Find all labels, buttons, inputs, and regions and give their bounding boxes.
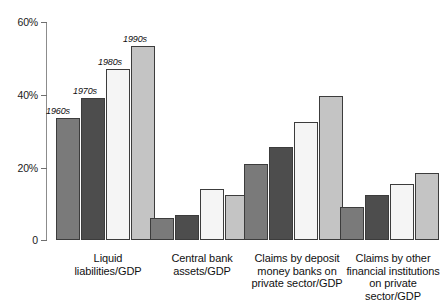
- bars-central-bank-assets: [150, 22, 254, 240]
- y-tick-label-40-wrap: 40%: [0, 90, 38, 101]
- category-label-line: sector/GDP: [331, 290, 441, 303]
- y-tick-label-60: 60%: [2, 17, 38, 28]
- category-label-line: Claims by other: [331, 252, 441, 265]
- bars-liquid-liabilities: [56, 22, 160, 240]
- data-label-1990s: 1990s: [123, 35, 147, 44]
- bar-group-deposit-money-banks: [244, 22, 348, 240]
- bar-1960s-deposit-money-banks[interactable]: [244, 164, 268, 240]
- y-tick-60: [41, 22, 47, 23]
- bar-1970s-liquid-liabilities[interactable]: [81, 98, 105, 240]
- bar-1970s-deposit-money-banks[interactable]: [269, 147, 293, 240]
- bar-1970s-other-financial-institutions[interactable]: [365, 195, 389, 240]
- bar-1970s-central-bank-assets[interactable]: [175, 215, 199, 240]
- y-tick-label-0: 0: [2, 235, 38, 246]
- y-tick-label-20-wrap: 20%: [0, 163, 38, 174]
- bar-group-central-bank-assets: [150, 22, 254, 240]
- data-label-1980s: 1980s: [98, 58, 122, 67]
- y-tick-label-0-wrap: 0: [0, 235, 38, 246]
- category-label-line: financial institutions: [331, 265, 441, 278]
- y-tick-0: [41, 240, 47, 241]
- bar-1960s-liquid-liabilities[interactable]: [56, 118, 80, 240]
- bar-1960s-other-financial-institutions[interactable]: [340, 207, 364, 240]
- bar-1980s-central-bank-assets[interactable]: [200, 189, 224, 240]
- y-axis-line: [46, 22, 47, 241]
- data-label-1960s: 1960s: [46, 107, 70, 116]
- bar-1990s-other-financial-institutions[interactable]: [415, 173, 439, 240]
- category-label-other-financial-institutions: Claims by other financial institutions o…: [331, 252, 441, 302]
- bars-other-financial-institutions: [340, 22, 441, 240]
- category-label-line: on private: [331, 277, 441, 290]
- bar-1980s-liquid-liabilities[interactable]: [106, 69, 130, 240]
- bar-1980s-deposit-money-banks[interactable]: [294, 122, 318, 240]
- plot-area: 60% 40% 20% 0 1960s 1970s 1980s: [0, 0, 441, 306]
- y-tick-label-60-wrap: 60%: [0, 17, 38, 28]
- data-label-1970s: 1970s: [73, 87, 97, 96]
- bar-1980s-other-financial-institutions[interactable]: [390, 184, 414, 240]
- bars-deposit-money-banks: [244, 22, 348, 240]
- y-tick-label-40: 40%: [2, 90, 38, 101]
- bar-1960s-central-bank-assets[interactable]: [150, 218, 174, 240]
- bar-group-other-financial-institutions: [340, 22, 441, 240]
- y-tick-40: [41, 95, 47, 96]
- y-tick-20: [41, 168, 47, 169]
- bar-group-liquid-liabilities: 1960s 1970s 1980s 1990s: [56, 22, 160, 240]
- bar-chart: 60% 40% 20% 0 1960s 1970s 1980s: [0, 0, 441, 306]
- y-tick-label-20: 20%: [2, 163, 38, 174]
